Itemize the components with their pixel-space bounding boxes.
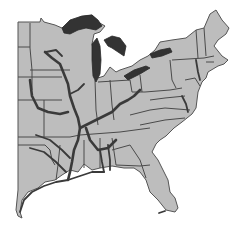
florida-keys (159, 211, 165, 213)
eastern-us-map (0, 0, 239, 250)
lake-huron (104, 36, 126, 56)
lake-michigan (92, 38, 101, 82)
map-svg (0, 0, 239, 250)
